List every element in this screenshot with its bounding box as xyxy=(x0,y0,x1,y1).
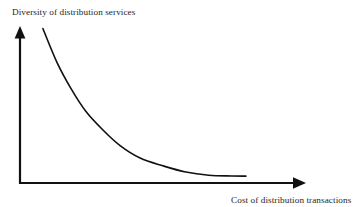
data-curve xyxy=(43,29,246,177)
x-axis-label: Cost of distribution transactions xyxy=(231,195,351,206)
chart-canvas xyxy=(0,0,362,207)
y-axis-label: Diversity of distribution services xyxy=(12,7,135,18)
chart-figure: Diversity of distribution services Cost … xyxy=(0,0,362,207)
arrow-up-icon xyxy=(15,26,26,39)
arrow-right-icon xyxy=(293,177,306,189)
